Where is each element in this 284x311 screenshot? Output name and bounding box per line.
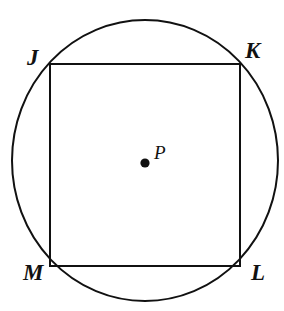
vertex-label-m: M <box>23 261 43 284</box>
vertex-label-l: L <box>251 261 265 284</box>
vertex-label-j: J <box>27 46 39 69</box>
center-point-dot <box>140 158 149 167</box>
geometry-figure: J K L M P <box>0 0 284 311</box>
center-point-label-p: P <box>154 143 166 162</box>
vertex-label-k: K <box>245 39 260 62</box>
